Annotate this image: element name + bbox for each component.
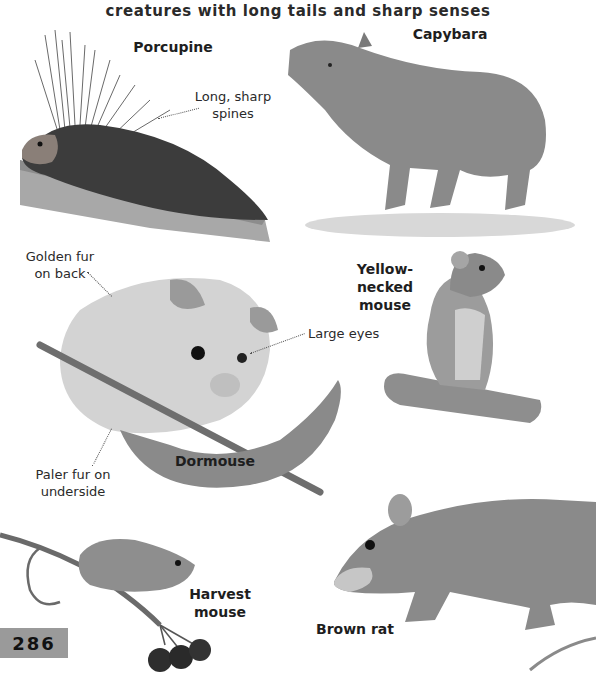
callout-line-2: spines (188, 105, 278, 122)
label-line-2: mouse (180, 603, 260, 621)
harvest-mouse-label: Harvest mouse (180, 585, 260, 621)
dormouse-callout-eyes: Large eyes (308, 325, 388, 342)
page-subtitle: creatures with long tails and sharp sens… (0, 2, 596, 20)
label-line-1: Yellow-necked (330, 260, 440, 296)
label-line-2: mouse (330, 296, 440, 314)
label-line-1: Harvest (180, 585, 260, 603)
callout-line-1: Golden fur (20, 248, 100, 265)
callout-line-1: Long, sharp (188, 88, 278, 105)
callout-line-1: Paler fur on (28, 466, 118, 483)
page-number-tab: 286 (0, 628, 68, 658)
callout-line-2: underside (28, 483, 118, 500)
brown-rat-label: Brown rat (310, 620, 400, 638)
dormouse-label: Dormouse (170, 452, 260, 470)
porcupine-callout: Long, sharp spines (188, 88, 278, 122)
dormouse-callout-back: Golden fur on back (20, 248, 100, 282)
brown-rat-illustration (330, 480, 596, 685)
capybara-illustration (280, 20, 596, 240)
porcupine-label: Porcupine (128, 38, 218, 56)
capybara-label: Capybara (400, 25, 500, 43)
dormouse-callout-underside: Paler fur on underside (28, 466, 118, 500)
yellow-necked-mouse-label: Yellow-necked mouse (330, 260, 440, 314)
